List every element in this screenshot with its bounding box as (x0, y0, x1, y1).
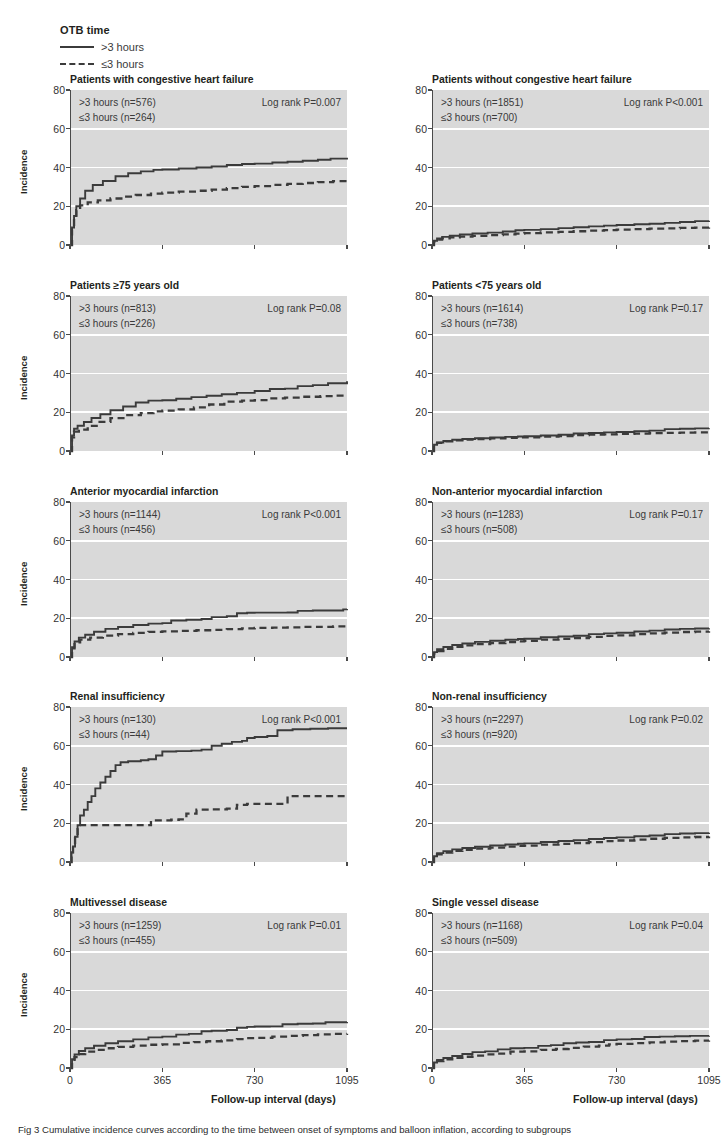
y-tick-label: 80 (41, 702, 65, 712)
y-tick-label: 0 (41, 652, 65, 662)
curve-under3h (70, 1034, 347, 1068)
y-tick-mark (428, 951, 432, 952)
y-tick-label: 20 (403, 613, 427, 623)
x-tick-label: 1095 (689, 1074, 725, 1086)
y-axis-label: Incidence (18, 972, 29, 1016)
y-tick-label: 80 (41, 497, 65, 507)
y-tick-label: 60 (41, 124, 65, 134)
y-tick-mark (66, 167, 70, 168)
y-tick-label: 60 (403, 536, 427, 546)
y-tick-label: 60 (41, 741, 65, 751)
y-tick-label: 0 (41, 240, 65, 250)
y-tick-label: 80 (403, 85, 427, 95)
curve-under3h (70, 626, 347, 657)
legend-title: OTB time (60, 24, 144, 36)
y-tick-mark (66, 745, 70, 746)
annotation-n-over3h: >3 hours (n=1851) (441, 97, 523, 108)
annotation-n-under3h: ≤3 hours (n=700) (441, 112, 517, 123)
panel-title: Renal insufficiency (70, 691, 165, 702)
x-tick-mark (616, 657, 617, 661)
annotation-logrank-p: Log rank P<0.001 (237, 714, 341, 725)
curve-under3h (70, 796, 347, 862)
y-tick-label: 80 (41, 291, 65, 301)
annotation-logrank-p: Log rank P=0.007 (237, 97, 341, 108)
x-tick-mark (346, 657, 347, 661)
y-tick-mark (66, 128, 70, 129)
x-tick-mark (616, 451, 617, 455)
annotation-n-under3h: ≤3 hours (n=508) (441, 524, 517, 535)
y-tick-mark (66, 784, 70, 785)
y-tick-label: 60 (403, 741, 427, 751)
y-tick-mark (428, 295, 432, 296)
y-tick-mark (428, 373, 432, 374)
annotation-n-over3h: >3 hours (n=1259) (79, 920, 161, 931)
annotation-n-under3h: ≤3 hours (n=44) (79, 729, 150, 740)
figure-caption: Fig 3 Cumulative incidence curves accord… (18, 1124, 708, 1135)
x-tick-mark (162, 862, 163, 866)
curve-under3h (70, 181, 347, 245)
x-axis-label: Follow-up interval (days) (211, 1093, 336, 1105)
x-tick-mark (346, 1068, 347, 1072)
y-tick-mark (428, 912, 432, 913)
y-tick-label: 80 (403, 291, 427, 301)
x-tick-mark (69, 245, 70, 249)
panel-title: Patients ≥75 years old (70, 280, 179, 291)
y-tick-mark (66, 990, 70, 991)
annotation-n-over3h: >3 hours (n=1168) (441, 920, 523, 931)
y-axis-line (432, 296, 433, 451)
panel-title: Multivessel disease (70, 897, 167, 908)
panel-title: Non-renal insufficiency (432, 691, 547, 702)
y-tick-label: 0 (403, 446, 427, 456)
x-tick-mark (346, 245, 347, 249)
x-tick-mark (431, 657, 432, 661)
y-tick-label: 0 (403, 240, 427, 250)
curve-under3h (432, 1040, 709, 1068)
x-tick-mark (254, 451, 255, 455)
annotation-logrank-p: Log rank P=0.01 (237, 920, 341, 931)
x-tick-mark (708, 1068, 709, 1072)
y-tick-label: 40 (41, 575, 65, 585)
panel-title: Patients with congestive heart failure (70, 74, 254, 85)
y-axis-line (70, 296, 71, 451)
x-tick-mark (524, 657, 525, 661)
x-tick-mark (162, 245, 163, 249)
x-tick-mark (431, 1068, 432, 1072)
x-tick-label: 730 (235, 1074, 275, 1086)
annotation-n-under3h: ≤3 hours (n=226) (79, 318, 155, 329)
y-tick-mark (428, 206, 432, 207)
x-tick-mark (708, 245, 709, 249)
y-tick-label: 40 (41, 986, 65, 996)
x-tick-mark (162, 657, 163, 661)
legend-item-over3: >3 hours (60, 41, 144, 53)
x-tick-label: 0 (50, 1074, 90, 1086)
y-tick-label: 40 (403, 575, 427, 585)
y-tick-mark (428, 706, 432, 707)
legend-item-label: ≤3 hours (101, 58, 144, 70)
y-tick-label: 20 (403, 407, 427, 417)
y-tick-label: 20 (41, 1024, 65, 1034)
y-tick-label: 40 (41, 780, 65, 790)
y-tick-label: 0 (41, 1063, 65, 1073)
annotation-logrank-p: Log rank P<0.001 (237, 509, 341, 520)
annotation-n-under3h: ≤3 hours (n=264) (79, 112, 155, 123)
legend-item-label: >3 hours (101, 41, 144, 53)
y-tick-label: 20 (41, 407, 65, 417)
x-tick-mark (524, 862, 525, 866)
annotation-n-over3h: >3 hours (n=1283) (441, 509, 523, 520)
curve-under3h (70, 395, 347, 451)
y-axis-line (432, 707, 433, 862)
y-tick-mark (66, 823, 70, 824)
y-tick-label: 80 (403, 702, 427, 712)
annotation-logrank-p: Log rank P=0.02 (599, 714, 703, 725)
annotation-n-over3h: >3 hours (n=130) (79, 714, 156, 725)
x-tick-mark (254, 245, 255, 249)
y-tick-label: 60 (41, 947, 65, 957)
x-tick-mark (162, 451, 163, 455)
x-tick-label: 365 (504, 1074, 544, 1086)
curve-over3h (70, 1022, 347, 1068)
annotation-n-over3h: >3 hours (n=2297) (441, 714, 523, 725)
y-tick-label: 40 (403, 780, 427, 790)
x-tick-mark (346, 451, 347, 455)
y-tick-label: 40 (41, 369, 65, 379)
x-tick-mark (431, 862, 432, 866)
